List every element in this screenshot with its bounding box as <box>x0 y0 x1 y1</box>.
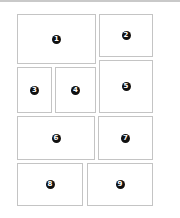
panel-4: 4 <box>55 67 96 113</box>
panel-6: 6 <box>17 116 95 160</box>
panel-number-badge: 9 <box>116 180 125 189</box>
panel-number-badge: 2 <box>122 31 131 40</box>
panel-2: 2 <box>99 14 153 57</box>
panel-number-badge: 6 <box>52 134 61 143</box>
top-divider <box>0 0 180 2</box>
panel-number-badge: 3 <box>30 86 39 95</box>
panel-number-badge: 7 <box>121 134 130 143</box>
panel-number-badge: 4 <box>71 86 80 95</box>
panel-8: 8 <box>17 163 83 206</box>
panel-9: 9 <box>87 163 153 206</box>
panel-number-badge: 5 <box>122 82 131 91</box>
panel-5: 5 <box>99 60 153 113</box>
panel-3: 3 <box>17 67 52 113</box>
panel-number-badge: 1 <box>52 35 61 44</box>
panel-7: 7 <box>98 116 153 160</box>
panel-1: 1 <box>17 14 96 64</box>
panel-number-badge: 8 <box>46 180 55 189</box>
